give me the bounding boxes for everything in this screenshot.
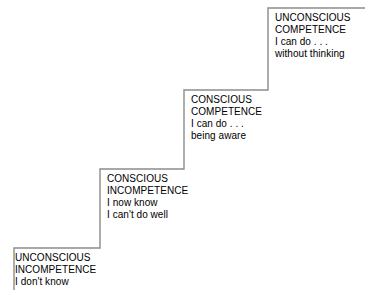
step-label-conscious-competence: CONSCIOUS COMPETENCE I can do . . . bein… — [191, 94, 262, 142]
step-heading-line-1: UNCONSCIOUS — [15, 252, 96, 264]
step-heading-line-1: CONSCIOUS — [107, 173, 188, 185]
step-heading-line-2: COMPETENCE — [191, 106, 262, 118]
step-body-line-2: I can't do well — [107, 209, 188, 221]
step-body-line-1: I don't know — [15, 276, 96, 288]
step-label-conscious-incompetence: CONSCIOUS INCOMPETENCE I now know I can'… — [107, 173, 188, 221]
step-heading-line-2: INCOMPETENCE — [15, 264, 96, 276]
step-body-line-1: I can do . . . — [191, 118, 262, 130]
step-heading-line-2: COMPETENCE — [275, 24, 351, 36]
step-heading-line-1: CONSCIOUS — [191, 94, 262, 106]
step-heading-line-2: INCOMPETENCE — [107, 185, 188, 197]
clipped-caption-artifact — [12, 295, 357, 303]
step-body-line-1: I can do . . . — [275, 36, 351, 48]
staircase-diagram-canvas: UNCONSCIOUS COMPETENCE I can do . . . wi… — [0, 0, 365, 303]
step-body-line-2: being aware — [191, 130, 262, 142]
step-heading-line-1: UNCONSCIOUS — [275, 12, 351, 24]
step-body-line-2: without thinking — [275, 48, 351, 60]
step-label-unconscious-incompetence: UNCONSCIOUS INCOMPETENCE I don't know — [15, 252, 96, 288]
step-body-line-1: I now know — [107, 197, 188, 209]
step-label-unconscious-competence: UNCONSCIOUS COMPETENCE I can do . . . wi… — [275, 12, 351, 60]
